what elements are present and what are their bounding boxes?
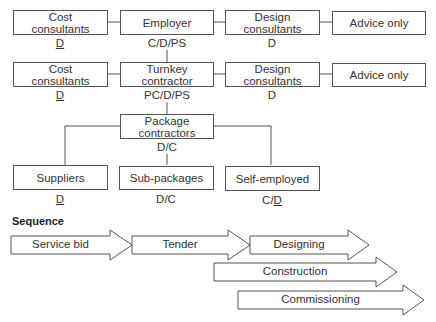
box-text: Suppliers [37,172,85,184]
row1-cost-consultants-box: Costconsultants [13,10,108,35]
suppliers-box: Suppliers [13,165,108,190]
row1-advice-only-box: Advice only [332,11,426,35]
box-text: Package [145,115,190,127]
box-text: consultants [243,23,301,35]
box-text: Cost [49,63,73,75]
arrow-label-construction: Construction [214,265,376,277]
role-underlined: D [274,194,282,206]
arrow-label-commissioning: Commissioning [238,293,403,305]
employer-role: C/D/PS [137,37,197,49]
row2-design-role: D [242,89,302,101]
self-employed-box: Self-employed [225,166,320,191]
turnkey-role: PC/D/PS [137,89,197,101]
package-role: D/C [137,141,197,153]
row1-design-role: D [242,37,302,49]
sequence-title: Sequence [12,215,64,227]
row1-cost-role: D [30,37,90,49]
row2-cost-role: D [30,89,90,101]
row2-design-consultants-box: Designconsultants [225,62,320,87]
box-text: Sub-packages [130,172,204,184]
box-text: contractors [139,127,196,139]
box-text: Design [255,63,291,75]
package-contractors-box: Packagecontractors [120,114,214,139]
arrow-label-tender: Tender [132,238,228,250]
box-text: Advice only [350,17,409,29]
box-text: contractor [141,75,192,87]
box-text: Turnkey [146,63,187,75]
sub-packages-box: Sub-packages [119,166,214,190]
row2-cost-consultants-box: Costconsultants [13,62,108,87]
arrow-label-service-bid: Service bid [11,238,110,250]
employer-box: Employer [120,10,214,35]
box-text: Design [255,11,291,23]
turnkey-contractor-box: Turnkeycontractor [120,62,214,87]
box-text: Advice only [350,69,409,81]
box-text: Self-employed [236,173,310,185]
box-text: Cost [49,11,73,23]
suppliers-role: D [30,193,90,205]
self-employed-role: C/D [242,194,302,206]
box-text: consultants [31,75,89,87]
sub-packages-role: D/C [136,193,196,205]
box-text: consultants [31,23,89,35]
role-prefix: C/ [262,194,274,206]
box-text: Employer [143,17,192,29]
row2-advice-only-box: Advice only [332,63,426,87]
arrow-label-designing: Designing [250,238,348,250]
box-text: consultants [243,75,301,87]
row1-design-consultants-box: Designconsultants [225,10,320,35]
